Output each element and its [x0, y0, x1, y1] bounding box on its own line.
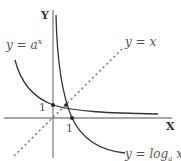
exponential-curve: [15, 60, 158, 114]
function-graph: Y X 1 1 y = ax y = x y = loga x: [0, 0, 181, 161]
identity-label: y = x: [124, 35, 156, 49]
point-1-0: [70, 116, 74, 120]
exponential-label: y = ax: [5, 37, 43, 52]
x-tick-one: 1: [66, 122, 73, 135]
point-intersection: [64, 103, 67, 106]
y-tick-one: 1: [39, 101, 46, 114]
x-axis-label: X: [166, 120, 175, 133]
point-0-1: [51, 103, 55, 107]
logarithm-label: y = loga x: [124, 147, 181, 161]
identity-line: [14, 49, 122, 156]
y-axis-label: Y: [40, 9, 49, 22]
